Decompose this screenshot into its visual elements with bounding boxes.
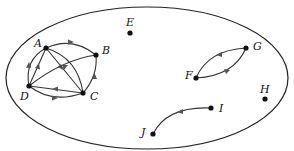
label-f: F [184, 69, 193, 82]
arrow-icon [177, 109, 183, 114]
label-a: A [33, 37, 42, 50]
label-j: J [139, 126, 146, 139]
node-d [26, 83, 31, 88]
label-h: H [259, 83, 270, 96]
arrow-icon [52, 87, 58, 92]
nodes [26, 30, 267, 136]
label-e: E [125, 16, 134, 29]
label-d: D [19, 90, 29, 103]
node-f [193, 75, 198, 80]
node-b [93, 52, 98, 57]
arrow-icon [92, 73, 97, 79]
cluster-fg-edges [196, 48, 246, 78]
edge-a-b [46, 43, 96, 55]
edge-d-b [29, 55, 96, 86]
node-a [43, 45, 48, 50]
node-c [80, 90, 85, 95]
label-b: B [101, 44, 110, 57]
label-i: I [218, 102, 224, 115]
universe-boundary [6, 7, 288, 149]
label-g: G [253, 40, 262, 53]
node-j [150, 131, 155, 136]
arrow-icon [52, 96, 58, 101]
node-labels: A B C D E F G H I J [19, 16, 270, 139]
node-g [243, 45, 248, 50]
node-h [262, 96, 267, 101]
graph-diagram: A B C D E F G H I J [0, 0, 294, 151]
node-e [127, 30, 132, 35]
node-i [208, 105, 213, 110]
label-c: C [90, 90, 99, 103]
cluster-ij-edges [153, 108, 211, 134]
arrow-icon [216, 52, 222, 57]
